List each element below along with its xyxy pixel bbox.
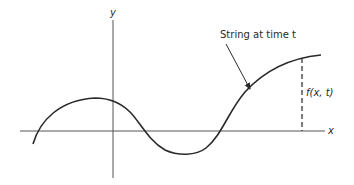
string-wave-diagram: x y f(x, t) String at time t [0, 0, 354, 185]
pointer-arrow [226, 44, 250, 89]
displacement-label: f(x, t) [306, 87, 334, 98]
x-axis-label: x [327, 125, 334, 136]
y-axis-label: y [109, 7, 117, 18]
string-curve [33, 55, 321, 154]
string-label: String at time t [220, 29, 296, 40]
